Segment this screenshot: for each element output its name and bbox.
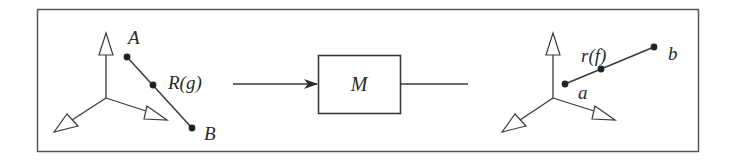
label-a: a xyxy=(578,82,588,103)
diagram-canvas: A R(g) B M r(f) b a xyxy=(0,0,731,163)
label-r-f: r(f) xyxy=(581,45,606,67)
label-b: b xyxy=(668,43,678,64)
axis-arrow-left-icon xyxy=(502,114,526,132)
point-B-dot xyxy=(189,125,196,132)
operator-label: M xyxy=(350,73,369,95)
right-segment xyxy=(562,44,658,88)
point-mid-right-dot xyxy=(598,66,605,73)
axis-arrow-up-icon xyxy=(546,33,560,55)
axis-arrow-right-icon xyxy=(144,106,167,120)
axis-arrow-right-icon xyxy=(592,106,615,120)
axis-arrow-up-icon xyxy=(99,33,113,55)
point-mid-left-dot xyxy=(150,82,157,89)
axis-arrow-left-icon xyxy=(54,114,78,132)
label-R-g: R(g) xyxy=(167,72,202,94)
label-A: A xyxy=(126,27,140,48)
point-a-dot xyxy=(562,81,569,88)
point-A-dot xyxy=(124,54,131,61)
label-B: B xyxy=(204,123,216,144)
point-b-dot xyxy=(651,44,658,51)
